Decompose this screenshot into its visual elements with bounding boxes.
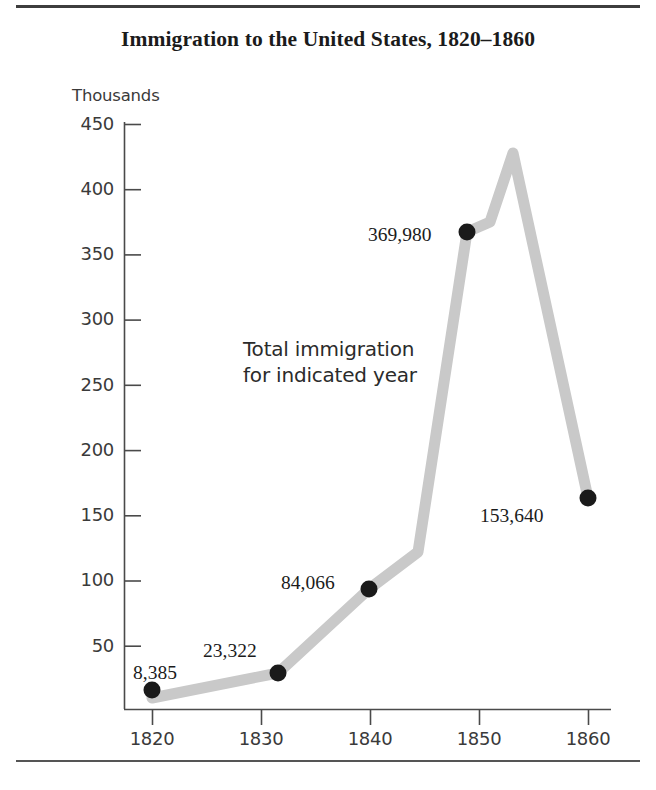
value-label-1840: 84,066: [281, 572, 335, 594]
x-axis-ticks: [153, 709, 589, 725]
data-point-1850: [459, 224, 476, 241]
chart-plot-area: 450 400 350 300 250 200 150 100 50 1820 …: [0, 0, 656, 790]
y-tick-label-200: 200: [58, 439, 114, 460]
x-tick-label-1860: 1860: [553, 728, 623, 749]
y-tick-label-250: 250: [58, 374, 114, 395]
x-tick-label-1820: 1820: [117, 728, 187, 749]
value-label-1820: 8,385: [133, 662, 177, 684]
y-axis-ticks: [124, 125, 141, 647]
y-tick-label-150: 150: [58, 504, 114, 525]
value-label-1830: 23,322: [203, 640, 257, 662]
y-tick-label-400: 400: [58, 178, 114, 199]
chart-annotation-line2: for indicated year: [243, 363, 417, 389]
data-point-1830: [270, 665, 287, 682]
y-tick-label-300: 300: [58, 308, 114, 329]
chart-annotation: Total immigration for indicated year: [243, 337, 417, 388]
x-tick-label-1840: 1840: [335, 728, 405, 749]
value-label-1850: 369,980: [368, 224, 431, 246]
x-tick-label-1850: 1850: [444, 728, 514, 749]
x-tick-label-1830: 1830: [226, 728, 296, 749]
value-label-1860: 153,640: [480, 505, 543, 527]
data-point-markers: [144, 224, 597, 699]
chart-annotation-line1: Total immigration: [243, 337, 417, 363]
data-point-1860: [580, 490, 597, 507]
data-point-1820: [144, 682, 161, 699]
data-point-1840: [361, 581, 378, 598]
y-tick-label-100: 100: [58, 569, 114, 590]
y-tick-label-450: 450: [58, 113, 114, 134]
bottom-divider-rule: [16, 760, 640, 762]
figure-page: Immigration to the United States, 1820–1…: [0, 0, 656, 790]
y-tick-label-50: 50: [58, 635, 114, 656]
y-tick-label-350: 350: [58, 243, 114, 264]
